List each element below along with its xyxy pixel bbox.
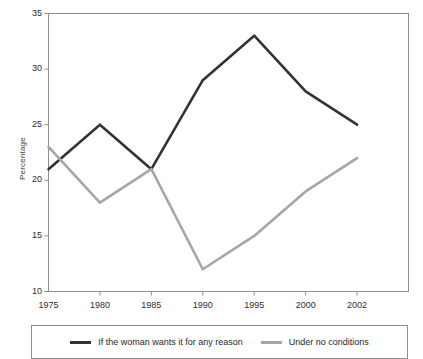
- line-chart: Percentage 353025201510 1975198019851990…: [0, 0, 423, 359]
- y-axis-tick-label: 35: [22, 8, 42, 18]
- x-axis-tick-label: 2000: [286, 300, 326, 310]
- legend-line-swatch-icon: [261, 341, 282, 344]
- x-axis-ticks: [100, 292, 357, 296]
- x-axis-tick-label: 1975: [29, 300, 69, 310]
- plot-frame: [49, 14, 409, 292]
- x-axis-tick-label: 1985: [131, 300, 171, 310]
- chart-legend: If the woman wants it for any reasonUnde…: [31, 325, 408, 359]
- legend-item-2[interactable]: Under no conditions: [261, 337, 369, 347]
- y-axis-tick-label: 30: [22, 63, 42, 73]
- x-axis-tick-label: 1990: [183, 300, 223, 310]
- x-axis-tick-label: 1980: [80, 300, 120, 310]
- series-line-1: [49, 36, 358, 169]
- legend-item-label: Under no conditions: [289, 337, 369, 347]
- x-axis-tick-label: 2002: [337, 300, 377, 310]
- series-layer: [49, 36, 358, 270]
- legend-item-label: If the woman wants it for any reason: [98, 337, 243, 347]
- legend-item-1[interactable]: If the woman wants it for any reason: [70, 337, 243, 347]
- y-axis-tick-label: 25: [22, 119, 42, 129]
- y-axis-tick-label: 10: [22, 286, 42, 296]
- y-axis-tick-label: 20: [22, 174, 42, 184]
- y-axis-tick-label: 15: [22, 230, 42, 240]
- legend-line-swatch-icon: [70, 341, 91, 344]
- x-axis-tick-label: 1995: [234, 300, 274, 310]
- y-axis-ticks: [45, 14, 49, 292]
- series-line-2: [49, 147, 358, 269]
- legend-entries: If the woman wants it for any reasonUnde…: [32, 326, 407, 358]
